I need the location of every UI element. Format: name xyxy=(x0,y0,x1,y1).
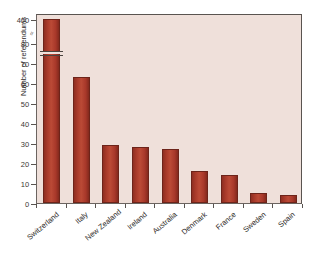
y-tick-label: 50 xyxy=(21,100,29,109)
y-axis: Number of referendums 010203040506070804… xyxy=(0,0,36,205)
bar xyxy=(221,175,238,203)
y-tick-label: 0 xyxy=(25,200,29,209)
chart-figure: Number of referendums 010203040506070804… xyxy=(0,0,314,269)
bar xyxy=(191,171,208,203)
axis-break-line xyxy=(40,55,63,56)
bar xyxy=(43,19,60,203)
x-tick-mark xyxy=(184,204,185,208)
x-tick-mark xyxy=(302,204,303,208)
bar xyxy=(132,147,149,203)
x-axis: SwitzerlandItalyNew ZealandIrelandAustra… xyxy=(36,204,302,268)
y-axis-break-marker: ≈ xyxy=(28,32,36,37)
x-tick-mark xyxy=(125,204,126,208)
bar xyxy=(102,145,119,203)
x-tick-mark xyxy=(154,204,155,208)
y-tick-label: 400 xyxy=(17,16,29,25)
bar xyxy=(280,195,297,203)
plot-area xyxy=(36,14,302,204)
y-tick-label: 10 xyxy=(21,180,29,189)
bar-series xyxy=(37,15,301,203)
x-tick-mark xyxy=(243,204,244,208)
x-tick-mark xyxy=(95,204,96,208)
y-tick-label: 40 xyxy=(21,120,29,129)
y-tick-label: 60 xyxy=(21,80,29,89)
bar xyxy=(162,149,179,203)
x-tick-mark xyxy=(272,204,273,208)
x-tick-mark xyxy=(213,204,214,208)
bar xyxy=(250,193,267,203)
y-tick-label: 20 xyxy=(21,160,29,169)
bar xyxy=(73,77,90,203)
x-tick-mark xyxy=(36,204,37,208)
x-tick-mark xyxy=(66,204,67,208)
axis-break-line xyxy=(40,51,63,52)
y-tick-label: 80 xyxy=(21,40,29,49)
y-tick-label: 70 xyxy=(21,60,29,69)
y-tick-label: 30 xyxy=(21,140,29,149)
